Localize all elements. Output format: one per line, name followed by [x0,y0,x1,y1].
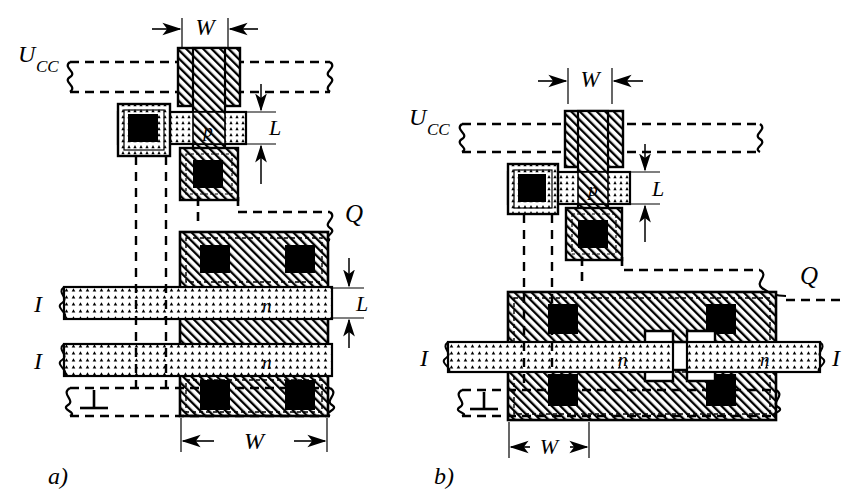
dim-label-w-top-b: W [580,67,601,92]
label-i-right-b: I [831,345,841,371]
dim-label-w-bottom-b: W [540,434,560,459]
label-i-left-b: I [419,345,429,371]
n-gate-strip-top-a: I n [33,287,332,319]
contact-nmos-drain-left-a [200,245,230,273]
label-n-top-a: n [262,295,272,316]
gate-contact-pad-b [508,164,558,214]
label-ucc-sub-b: CC [427,120,450,139]
pmos-drain-pad-b [566,208,622,260]
n-gate-strip-right-b: I n [687,342,841,372]
background [0,0,868,498]
contact-nmos-source-left-a [200,380,230,410]
label-q-a: Q [345,200,363,227]
caption-b: b) [434,463,454,489]
contact-gate-a [128,114,158,142]
dim-label-l-b: L [651,176,664,201]
dim-label-l-bottom-a: L [355,291,368,316]
label-n-right-b: n [760,349,770,370]
layout-diagram-svg: W U CC p [0,0,868,498]
contact-pmos-drain-a [193,160,223,188]
label-ucc-sub-a: CC [36,57,59,76]
dim-label-l-top-a: L [268,115,281,140]
gate-contact-pad-a [118,104,170,156]
contact-nmos-drain-right-b [706,304,736,334]
label-ucc-b: U [409,104,428,130]
n-gate-strip-bottom-a: I n [33,344,332,376]
caption-a: a) [48,463,68,489]
dim-label-w-bottom-a: W [244,428,266,454]
contact-nmos-drain-right-a [285,245,315,273]
contact-gate-b [518,174,546,202]
label-p-region-a: p [201,120,213,141]
figure-canvas: W U CC p [0,0,868,498]
contact-pmos-drain-b [578,220,608,248]
label-n-bottom-a: n [262,352,272,373]
n-gate-strip-left-b: I n [419,342,673,372]
label-n-left-b: n [618,349,628,370]
dim-label-w-top-a: W [195,15,216,40]
label-i-bottom-a: I [33,348,43,374]
label-p-region-b: p [586,179,598,200]
label-q-b: Q [800,262,818,289]
label-ucc-a: U [18,41,37,67]
contact-nmos-source-right-a [285,380,315,410]
label-i-top-a: I [33,291,43,317]
pmos-drain-pad-a [180,148,238,200]
